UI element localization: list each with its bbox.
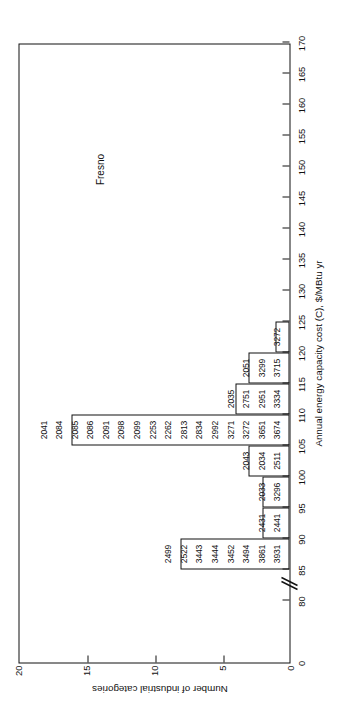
bar-value-label: 2751 xyxy=(238,389,254,407)
x-axis-tick xyxy=(282,134,289,135)
x-axis-tick-label: 95 xyxy=(295,503,306,513)
bar-value-labels: 3272 xyxy=(269,322,285,351)
y-axis-tick xyxy=(223,655,224,662)
x-axis-tick xyxy=(282,444,289,445)
bar-value-label: 2085 xyxy=(67,420,83,438)
bar-value-label: 2099 xyxy=(129,420,145,438)
x-axis-tick-label: 145 xyxy=(295,190,306,206)
histogram-bar: 39313861349434523444344325222499 xyxy=(180,538,289,569)
x-axis-tick-label: 90 xyxy=(295,534,306,544)
y-axis-tick xyxy=(87,655,88,662)
figure: Number of industrial categories 39313861… xyxy=(0,0,364,725)
x-axis-title: Annual energy capacity cost (C), $/MBtu … xyxy=(312,43,323,663)
x-axis-tick xyxy=(282,413,289,414)
bar-value-label: 3334 xyxy=(269,389,285,407)
histogram-bar: 3334295127512035 xyxy=(235,383,289,414)
x-axis-tick-label: 150 xyxy=(295,159,306,175)
y-axis-title: Number of industrial categories xyxy=(20,684,300,695)
x-axis-tick-label: 170 xyxy=(295,35,306,51)
bar-value-label: 2043 xyxy=(238,451,254,469)
x-axis-tick xyxy=(282,506,289,507)
x-axis-tick-label: 85 xyxy=(295,565,306,575)
bar-value-label: 3931 xyxy=(269,544,285,562)
x-axis-tick xyxy=(282,103,289,104)
x-axis-tick xyxy=(282,475,289,476)
bar-value-labels: 39313861349434523444344325222499 xyxy=(160,539,285,568)
bar-value-label: 3444 xyxy=(207,544,223,562)
x-axis-tick-label: 105 xyxy=(295,438,306,454)
bar-value-labels: 251120342043 xyxy=(238,446,285,475)
x-axis-tick xyxy=(282,351,289,352)
x-axis-tick-label: 155 xyxy=(295,128,306,144)
bar-value-label: 2051 xyxy=(238,358,254,376)
bar-value-labels: 371532992051 xyxy=(238,353,285,382)
bar-value-label: 2033 xyxy=(254,482,270,500)
x-axis-tick xyxy=(282,258,289,259)
x-axis-tick-label: 0 xyxy=(295,660,306,665)
x-axis-tick xyxy=(282,227,289,228)
histogram-bar: 251120342043 xyxy=(248,445,289,476)
rotated-figure-wrapper: Number of industrial categories 39313861… xyxy=(0,0,364,725)
bar-value-label: 3272 xyxy=(269,327,285,345)
bar-value-labels: 3334295127512035 xyxy=(223,384,285,413)
bar-value-label: 3271 xyxy=(223,420,239,438)
bar-value-label: 2262 xyxy=(160,420,176,438)
x-axis-tick-label: 100 xyxy=(295,469,306,485)
x-axis-tick-label: 130 xyxy=(295,283,306,299)
x-axis-tick xyxy=(282,41,289,42)
bar-value-label: 2522 xyxy=(176,544,192,562)
bar-value-label: 2035 xyxy=(223,389,239,407)
bar-value-label: 2041 xyxy=(36,420,52,438)
y-axis-tick xyxy=(155,655,156,662)
y-axis-tick-label: 15 xyxy=(81,665,92,681)
bar-value-label: 3715 xyxy=(269,358,285,376)
x-axis-tick-label: 160 xyxy=(295,97,306,113)
bar-value-label: 3494 xyxy=(238,544,254,562)
x-axis-tick-label: 80 xyxy=(295,596,306,606)
bar-value-labels: 3674365132723271299228342813226222532099… xyxy=(36,415,286,444)
x-axis-tick xyxy=(282,289,289,290)
x-axis-tick-label: 120 xyxy=(295,345,306,361)
bar-value-label: 3443 xyxy=(191,544,207,562)
bar-value-label: 2951 xyxy=(254,389,270,407)
plot-annotation-fresno: Fresno xyxy=(94,153,105,184)
x-axis-tick-label: 140 xyxy=(295,221,306,237)
bar-value-label: 2034 xyxy=(254,451,270,469)
x-axis-tick xyxy=(282,165,289,166)
bar-value-label: 3674 xyxy=(269,420,285,438)
bar-value-labels: 32962033 xyxy=(254,477,285,506)
y-axis-tick-label: 0 xyxy=(285,665,296,681)
histogram-bar: 3272 xyxy=(275,321,289,352)
bar-value-labels: 24412431 xyxy=(254,508,285,537)
x-axis-tick-label: 135 xyxy=(295,252,306,268)
bar-value-label: 3272 xyxy=(238,420,254,438)
bar-value-label: 2253 xyxy=(145,420,161,438)
chart-page: Number of industrial categories 39313861… xyxy=(0,0,364,725)
bar-value-label: 3299 xyxy=(254,358,270,376)
axis-break-icon xyxy=(278,574,298,592)
histogram-bar: 371532992051 xyxy=(248,352,289,383)
x-axis-tick xyxy=(282,568,289,569)
bar-value-label: 3651 xyxy=(254,420,270,438)
x-axis-tick-label: 115 xyxy=(295,377,306,392)
x-axis-tick xyxy=(282,196,289,197)
bar-value-label: 2086 xyxy=(82,420,98,438)
plot-area: 3931386134943452344434432522249924412431… xyxy=(18,43,290,663)
bar-value-label: 2499 xyxy=(160,544,176,562)
bar-value-label: 3452 xyxy=(223,544,239,562)
bar-value-label: 2084 xyxy=(51,420,67,438)
x-axis-tick xyxy=(282,382,289,383)
bar-value-label: 2813 xyxy=(176,420,192,438)
bar-value-label: 2992 xyxy=(207,420,223,438)
bar-value-label: 2098 xyxy=(113,420,129,438)
x-axis-tick xyxy=(282,72,289,73)
x-axis-tick xyxy=(282,320,289,321)
y-axis-tick-label: 10 xyxy=(149,665,160,681)
histogram-bar: 32962033 xyxy=(262,476,289,507)
histogram-bar: 3674365132723271299228342813226222532099… xyxy=(71,414,289,445)
bar-value-label: 2834 xyxy=(191,420,207,438)
y-axis-tick-label: 20 xyxy=(13,665,24,681)
bar-value-label: 2431 xyxy=(254,513,270,531)
bar-value-label: 2091 xyxy=(98,420,114,438)
x-axis-tick xyxy=(282,599,289,600)
